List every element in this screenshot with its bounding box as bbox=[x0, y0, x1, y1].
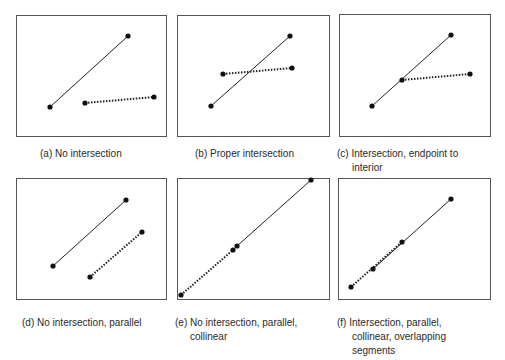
caption-f-line2: collinear, overlapping bbox=[337, 330, 446, 344]
panel-f-frame bbox=[339, 179, 491, 300]
panel-e-frame bbox=[178, 179, 330, 300]
caption-f-tag: (f) bbox=[337, 317, 346, 328]
caption-f-line3: segments bbox=[337, 344, 446, 358]
caption-d: (d) No intersection, parallel bbox=[22, 316, 142, 330]
caption-e-tag: (e) bbox=[175, 317, 187, 328]
caption-e-line1: No intersection, parallel, bbox=[190, 317, 297, 328]
panel-d-segment-dotted bbox=[90, 232, 142, 277]
panel-c-segment-dotted bbox=[402, 74, 470, 80]
panel-b-frame bbox=[178, 16, 330, 137]
panel-f-endpoint bbox=[370, 266, 375, 271]
caption-c: (c) Intersection, endpoint to interior bbox=[337, 147, 458, 175]
caption-d-line1: No intersection, parallel bbox=[37, 317, 142, 328]
caption-a-text: (a) bbox=[40, 148, 52, 159]
panel-d-endpoint bbox=[139, 229, 144, 234]
caption-c-line2: interior bbox=[337, 161, 458, 175]
panel-a-segment-solid bbox=[50, 36, 128, 107]
panel-d-endpoint bbox=[87, 274, 92, 279]
figure bbox=[0, 0, 505, 360]
panel-e-segment-dotted bbox=[181, 250, 233, 295]
caption-c-tag: (c) bbox=[337, 148, 349, 159]
panel-c-endpoint bbox=[369, 103, 374, 108]
panel-d-endpoint bbox=[123, 197, 128, 202]
panel-b-endpoint bbox=[289, 65, 294, 70]
panel-b-segment-dotted bbox=[223, 68, 292, 74]
panel-e-segment-solid bbox=[237, 180, 311, 246]
panel-d-endpoint bbox=[50, 263, 55, 268]
panel-c-segment-solid bbox=[372, 35, 451, 106]
caption-f-line1: Intersection, parallel, bbox=[349, 317, 441, 328]
caption-b-tag: (b) bbox=[195, 148, 207, 159]
panel-a-segment-dotted bbox=[85, 97, 154, 103]
panel-e-endpoint bbox=[178, 292, 183, 297]
panel-b-endpoint bbox=[287, 33, 292, 38]
panel-a-endpoint bbox=[82, 100, 87, 105]
caption-a: (a) No intersection bbox=[40, 147, 122, 161]
caption-a-line1: No intersection bbox=[55, 148, 122, 159]
panel-b-endpoint bbox=[220, 71, 225, 76]
panel-b-endpoint bbox=[208, 103, 213, 108]
panel-f-endpoint bbox=[348, 284, 353, 289]
panel-d-frame bbox=[17, 179, 167, 300]
panel-a-endpoint bbox=[47, 104, 52, 109]
panel-c-endpoint bbox=[467, 71, 472, 76]
panel-f-endpoint bbox=[399, 239, 404, 244]
panel-e-endpoint bbox=[234, 243, 239, 248]
caption-e-line2: collinear bbox=[175, 330, 297, 344]
caption-b: (b) Proper intersection bbox=[195, 147, 294, 161]
panel-a-endpoint bbox=[151, 94, 156, 99]
caption-e: (e) No intersection, parallel, collinear bbox=[175, 316, 297, 344]
caption-f: (f) Intersection, parallel, collinear, o… bbox=[337, 316, 446, 358]
panel-d-segment-solid bbox=[53, 200, 126, 266]
panel-c-endpoint bbox=[448, 32, 453, 37]
panel-c-frame bbox=[340, 15, 491, 137]
panel-f-endpoint bbox=[448, 196, 453, 201]
panel-c-endpoint bbox=[399, 77, 404, 82]
caption-c-line1: Intersection, endpoint to bbox=[351, 148, 458, 159]
panel-e-endpoint bbox=[230, 247, 235, 252]
panel-f-segment-dotted bbox=[351, 242, 402, 287]
panel-a-frame bbox=[17, 16, 167, 137]
panel-a-endpoint bbox=[125, 33, 130, 38]
panel-f-segment-solid bbox=[373, 199, 451, 269]
caption-d-tag: (d) bbox=[22, 317, 34, 328]
caption-b-line1: Proper intersection bbox=[210, 148, 294, 159]
panel-e-endpoint bbox=[308, 177, 313, 182]
